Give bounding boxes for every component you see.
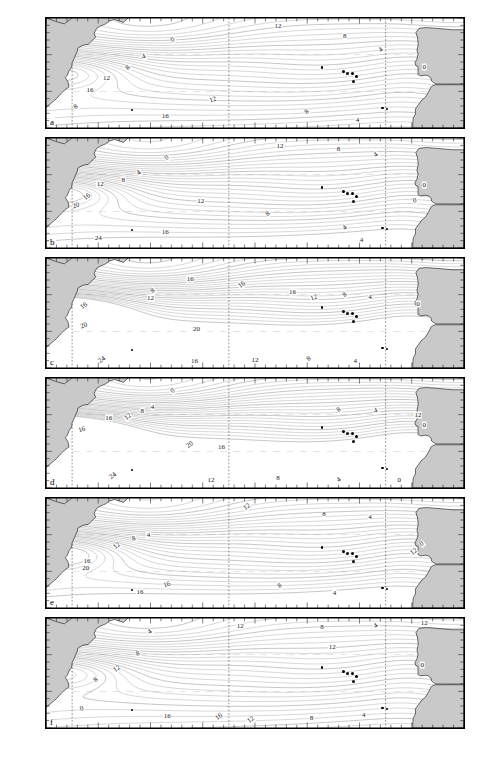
contour-label: 4 — [150, 404, 155, 411]
contour-label: 4 — [361, 711, 366, 718]
landmass-iberian-peninsula — [415, 28, 464, 84]
contour-label: 4 — [368, 514, 373, 521]
station-dot — [321, 186, 323, 188]
landmass-iberian-peninsula — [415, 508, 464, 564]
ocean-background — [46, 258, 464, 368]
contour-label: 8 — [336, 146, 341, 153]
contour-label: 16 — [289, 288, 297, 295]
contour-label: 12 — [197, 198, 205, 205]
station-dot — [351, 72, 354, 75]
contour-label: 0 — [397, 476, 402, 483]
station-dot — [321, 306, 323, 308]
station-dot — [386, 708, 388, 710]
station-dot — [351, 432, 354, 435]
contour-label: 8 — [276, 474, 281, 481]
ocean-background — [46, 138, 464, 248]
map-canvas — [46, 618, 464, 728]
contour-label: 4 — [146, 532, 151, 539]
contour-label: 4 — [332, 590, 337, 597]
contour-label: 16 — [105, 415, 113, 422]
contour-label: 0 — [422, 182, 427, 189]
station-dot — [351, 552, 354, 555]
contour-label: 12 — [96, 180, 104, 187]
contour-label: 8 — [121, 177, 126, 184]
station-dot — [355, 675, 358, 678]
station-dot — [381, 347, 383, 349]
figure-root: 012840481216812168445°N40°35°a0128400481… — [0, 0, 483, 768]
map-panel-d: 048121616201612840241284045°N40°35°d — [45, 377, 465, 489]
map-canvas — [46, 258, 464, 368]
station-dot — [355, 555, 358, 558]
panel-label-f: f — [49, 717, 54, 727]
contour-label: 8 — [322, 510, 327, 517]
contour-label: 20 — [192, 325, 200, 332]
contour-label: 12 — [103, 74, 111, 81]
contour-label: 0 — [422, 63, 427, 70]
station-dot — [386, 228, 388, 230]
station-dot — [351, 312, 354, 315]
contour-label: 16 — [218, 443, 226, 450]
contour-label: 12 — [274, 23, 282, 30]
contour-label: 12 — [147, 295, 155, 302]
contour-label: 0 — [420, 662, 425, 669]
station-dot — [386, 468, 388, 470]
contour-label: 12 — [236, 623, 244, 630]
panel-label-e: e — [49, 597, 55, 607]
map-panel-e: 12840481216201216168445°N40°35°e — [45, 497, 465, 609]
map-svg-wrapper — [46, 498, 464, 608]
contour-label: 8 — [320, 624, 325, 631]
map-svg-wrapper — [46, 378, 464, 488]
station-dot — [381, 707, 383, 709]
contour-label: 4 — [368, 294, 373, 301]
contour-label: 4 — [353, 357, 358, 364]
panel-label-b: b — [49, 237, 56, 247]
station-dot — [321, 666, 323, 668]
map-canvas — [46, 378, 464, 488]
map-canvas — [46, 498, 464, 608]
map-svg-wrapper — [46, 258, 464, 368]
station-dot — [381, 107, 383, 109]
contour-label: 16 — [161, 229, 169, 236]
contour-label: 16 — [186, 276, 194, 283]
landmass-iberian-peninsula — [415, 628, 464, 684]
contour-label: 16 — [86, 87, 94, 94]
station-dot — [381, 587, 383, 589]
map-panel-c: 812161616128401620202416128445°N40°35°c — [45, 257, 465, 369]
panel-label-a: a — [49, 117, 55, 127]
contour-label: 0 — [422, 421, 427, 428]
station-dot — [351, 192, 354, 195]
contour-label: 12 — [251, 357, 259, 364]
contour-label: 8 — [309, 714, 314, 721]
station-dot — [355, 195, 358, 198]
contour-label: 16 — [161, 112, 169, 119]
contour-label: 8 — [140, 408, 145, 415]
contour-label: 8 — [343, 33, 348, 40]
contour-label: 0 — [416, 301, 421, 308]
station-dot — [355, 315, 358, 318]
station-dot — [321, 66, 323, 68]
panel-label-d: d — [49, 477, 56, 487]
contour-label: 20 — [82, 565, 90, 572]
contour-label: 4 — [359, 237, 364, 244]
station-dot — [386, 348, 388, 350]
contour-label: 12 — [328, 644, 336, 651]
contour-label: 12 — [207, 476, 215, 483]
contour-label: 12 — [276, 142, 284, 149]
station-dot — [386, 588, 388, 590]
station-dot — [351, 672, 354, 675]
contour-label: 16 — [136, 589, 144, 596]
contour-label: 16 — [163, 713, 171, 720]
landmass-iberian-peninsula — [415, 388, 464, 444]
contour-label: 12 — [420, 619, 428, 626]
landmass-iberian-peninsula — [415, 268, 464, 324]
station-dot — [381, 227, 383, 229]
map-panel-a: 012840481216812168445°N40°35°a — [45, 17, 465, 129]
station-dot — [381, 467, 383, 469]
landmass-iberian-peninsula — [415, 148, 464, 204]
map-svg-wrapper — [46, 138, 464, 248]
station-dot — [386, 108, 388, 110]
contour-label: 12 — [414, 412, 422, 419]
ocean-background — [46, 618, 464, 728]
contour-label: 24 — [94, 234, 102, 241]
station-dot — [355, 435, 358, 438]
